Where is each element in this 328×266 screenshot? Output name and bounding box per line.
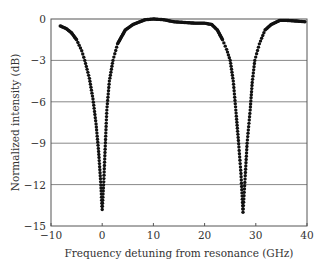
data-point (94, 119, 97, 122)
data-point (81, 52, 84, 55)
data-point (229, 62, 232, 65)
data-point (234, 108, 237, 111)
data-point (238, 152, 241, 155)
y-tick-label: 0 (39, 13, 46, 25)
data-point (250, 93, 253, 96)
data-point (104, 138, 107, 141)
data-point (106, 99, 109, 102)
data-point (247, 125, 250, 128)
data-point (84, 62, 87, 65)
data-point (247, 122, 250, 125)
y-axis-label: Normalized intensity (dB) (9, 54, 21, 191)
data-point (234, 105, 237, 108)
data-point (108, 76, 111, 79)
data-point (101, 192, 104, 195)
data-point (246, 138, 249, 141)
chart: −10010203040 0−3−6−9−12−15 Frequency det… (0, 0, 328, 266)
data-point (250, 87, 253, 90)
data-point (103, 154, 106, 157)
data-point (99, 180, 102, 183)
data-point (249, 99, 252, 102)
data-point (95, 134, 98, 137)
data-point (242, 207, 245, 210)
data-point (105, 118, 108, 121)
data-point (252, 65, 255, 68)
data-point (110, 68, 113, 71)
data-point (248, 115, 251, 118)
data-point (107, 86, 110, 89)
data-point (88, 77, 91, 80)
data-point (246, 135, 249, 138)
data-point (224, 44, 227, 47)
data-point (237, 145, 240, 148)
data-point (244, 158, 247, 161)
data-point (251, 74, 254, 77)
data-point (114, 49, 117, 52)
data-point (95, 125, 98, 128)
data-point (109, 71, 112, 74)
data-point (98, 165, 101, 168)
data-point (237, 149, 240, 152)
data-point (234, 111, 237, 114)
data-point (95, 128, 98, 131)
data-point (104, 134, 107, 137)
data-point (89, 86, 92, 89)
data-point (89, 83, 92, 86)
data-point (105, 121, 108, 124)
data-point (239, 165, 242, 168)
y-tick-label: −9 (31, 137, 46, 149)
data-point (248, 112, 251, 115)
data-point (249, 96, 252, 99)
data-point (233, 96, 236, 99)
data-point (244, 164, 247, 167)
data-point (109, 73, 112, 76)
data-point (231, 73, 234, 76)
data-point (107, 83, 110, 86)
data-point (232, 86, 235, 89)
data-point (245, 151, 248, 154)
data-point (245, 145, 248, 148)
data-point (243, 181, 246, 184)
data-point (303, 20, 306, 23)
data-point (103, 167, 106, 170)
data-point (248, 108, 251, 111)
data-point (102, 177, 105, 180)
data-point (242, 197, 245, 200)
data-point (103, 148, 106, 151)
data-point (257, 45, 260, 48)
data-point (106, 96, 109, 99)
data-point (111, 59, 114, 62)
data-point (230, 71, 233, 74)
data-point (93, 110, 96, 113)
data-point (242, 204, 245, 207)
data-point (240, 178, 243, 181)
data-point (233, 92, 236, 95)
data-point (247, 128, 250, 131)
data-point (238, 155, 241, 158)
data-point (97, 153, 100, 156)
data-point (250, 84, 253, 87)
data-point (237, 142, 240, 145)
data-point (254, 55, 257, 58)
x-tick-label: 0 (99, 229, 106, 241)
data-point (244, 171, 247, 174)
data-point (80, 49, 83, 52)
data-point (235, 121, 238, 124)
data-point (102, 183, 105, 186)
data-point (242, 201, 245, 204)
data-point (98, 171, 101, 174)
data-point (102, 186, 105, 189)
data-point (92, 104, 95, 107)
data-point (252, 68, 255, 71)
data-point (245, 155, 248, 158)
data-point (103, 164, 106, 167)
data-point (86, 71, 89, 74)
data-point (251, 81, 254, 84)
data-point (97, 147, 100, 150)
data-point (235, 114, 238, 117)
data-point (92, 107, 95, 110)
data-point (111, 62, 114, 65)
data-point (96, 141, 99, 144)
data-point (230, 68, 233, 71)
data-point (96, 138, 99, 141)
